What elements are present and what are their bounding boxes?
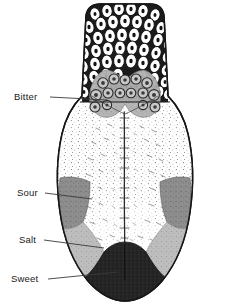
label-sweet-text: Sweet (11, 273, 39, 284)
label-sour-text: Sour (17, 187, 38, 198)
label-bitter-text: Bitter (14, 91, 37, 102)
label-salt-text: Salt (19, 234, 36, 245)
tongue-taste-map-figure: Bitter Sour Salt Sweet (0, 0, 229, 304)
